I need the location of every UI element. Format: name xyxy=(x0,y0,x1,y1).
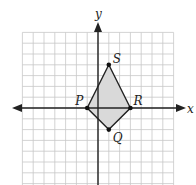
vertex-label-s: S xyxy=(113,52,121,66)
vertex-label-q: Q xyxy=(113,131,123,145)
x-axis-label: x xyxy=(187,102,194,116)
coordinate-plane: x y PSRQ xyxy=(0,0,196,185)
vertex-label-r: R xyxy=(132,94,142,108)
kite-polygon xyxy=(87,65,130,130)
vertex-label-p: P xyxy=(74,94,84,108)
y-axis-label: y xyxy=(94,7,102,21)
x-axis-left-arrow-icon xyxy=(12,104,22,112)
x-axis-right-arrow-icon xyxy=(176,104,186,112)
vertex-point-r xyxy=(128,106,133,111)
vertex-point-q xyxy=(107,127,112,132)
y-axis-up-arrow-icon xyxy=(94,22,102,32)
vertex-point-p xyxy=(85,106,90,111)
vertex-point-s xyxy=(107,63,112,68)
